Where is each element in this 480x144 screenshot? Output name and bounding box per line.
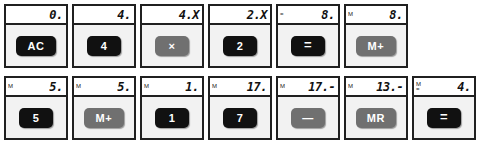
key-label: 1 [169,112,176,124]
key-area: 2 [210,25,270,66]
key-label: MR [367,112,385,124]
lcd-display: M17. [210,78,270,97]
lcd-indicators: M [212,78,217,95]
lcd-value: 17.- [308,80,335,93]
key-area: — [278,97,338,138]
memory-indicator: M [8,84,13,89]
key-area: 4 [74,25,134,66]
equals-indicator: = [416,87,419,92]
lcd-value: 4.X [179,8,199,21]
calculator-step-9: M1.1 [140,76,204,140]
memory-plus-key[interactable]: M+ [84,108,124,128]
calculator-step-6: M8.M+ [344,4,408,68]
lcd-display: M5. [6,78,66,97]
key-area: 5 [6,97,66,138]
memory-indicator: M [348,12,353,17]
digit-2-key[interactable]: 2 [223,36,257,56]
digit-7-key[interactable]: 7 [223,108,257,128]
key-label: × [168,40,175,52]
lcd-indicators: M= [416,78,421,95]
lcd-value: 0. [50,8,63,21]
key-label: 7 [237,112,244,124]
lcd-display: M=4. [414,78,474,97]
lcd-value: 4. [118,8,131,21]
memory-indicator: M [144,84,149,89]
calculator-step-13: M=4.= [412,76,476,140]
lcd-value: 17. [247,80,267,93]
calculator-step-1: 0.AC [4,4,68,68]
lcd-display: M13.- [346,78,406,97]
memory-plus-key[interactable]: M+ [356,36,396,56]
key-area: × [142,25,202,66]
memory-indicator: M [348,84,353,89]
lcd-value: 8. [390,8,403,21]
key-area: AC [6,25,66,66]
memory-indicator: M [280,84,285,89]
calculator-step-10: M17.7 [208,76,272,140]
lcd-indicators: M [348,78,353,95]
lcd-value: 13.- [376,80,403,93]
lcd-display: M5. [74,78,134,97]
lcd-value: 2.X [247,8,267,21]
key-label: — [302,112,314,124]
calculator-step-5: =8.= [276,4,340,68]
digit-1-key[interactable]: 1 [155,108,189,128]
key-area: = [414,97,474,138]
minus-key[interactable]: — [291,108,325,128]
calculator-step-4: 2.X2 [208,4,272,68]
lcd-display: =8. [278,6,338,25]
lcd-display: 2.X [210,6,270,25]
multiply-key[interactable]: × [155,36,189,56]
lcd-indicators: M [144,78,149,95]
equals-key[interactable]: = [291,36,325,56]
all-clear-key[interactable]: AC [16,36,56,56]
lcd-indicators: M [8,78,13,95]
key-label: M+ [368,40,385,52]
lcd-indicators: = [280,6,283,23]
lcd-value: 4. [458,80,471,93]
key-area: M+ [74,97,134,138]
lcd-indicators: M [348,6,353,23]
calculator-step-2: 4.4 [72,4,136,68]
calculator-step-12: M13.-MR [344,76,408,140]
lcd-display: M17.- [278,78,338,97]
memory-recall-key[interactable]: MR [356,108,396,128]
key-area: MR [346,97,406,138]
key-label: 2 [237,40,244,52]
key-area: M+ [346,25,406,66]
lcd-display: 0. [6,6,66,25]
memory-indicator: M [76,84,81,89]
lcd-value: 5. [118,80,131,93]
key-label: M+ [96,112,113,124]
lcd-display: M1. [142,78,202,97]
lcd-display: 4.X [142,6,202,25]
calculator-key-sequence: 0.AC4.44.X×2.X2=8.=M8.M+M5.5M5.M+M1.1M17… [0,0,480,144]
calculator-step-7: M5.5 [4,76,68,140]
key-label: AC [27,40,44,52]
lcd-indicators: M [280,78,285,95]
key-label: 5 [33,112,40,124]
lcd-value: 1. [186,80,199,93]
lcd-display: 4. [74,6,134,25]
lcd-indicators: M [76,78,81,95]
key-label: = [440,110,448,123]
key-area: = [278,25,338,66]
digit-4-key[interactable]: 4 [87,36,121,56]
lcd-display: M8. [346,6,406,25]
calculator-step-11: M17.-— [276,76,340,140]
lcd-value: 8. [322,8,335,21]
memory-indicator: M [212,84,217,89]
digit-5-key[interactable]: 5 [19,108,53,128]
key-area: 7 [210,97,270,138]
key-label: 4 [101,40,108,52]
equals-indicator: = [280,12,283,17]
lcd-value: 5. [50,80,63,93]
sequence-row: 0.AC4.44.X×2.X2=8.=M8.M+ [4,4,480,72]
equals-key[interactable]: = [427,108,461,128]
calculator-step-8: M5.M+ [72,76,136,140]
key-area: 1 [142,97,202,138]
calculator-step-3: 4.X× [140,4,204,68]
sequence-row: M5.5M5.M+M1.1M17.7M17.-—M13.-MRM=4.= [4,76,480,144]
key-label: = [304,38,312,51]
